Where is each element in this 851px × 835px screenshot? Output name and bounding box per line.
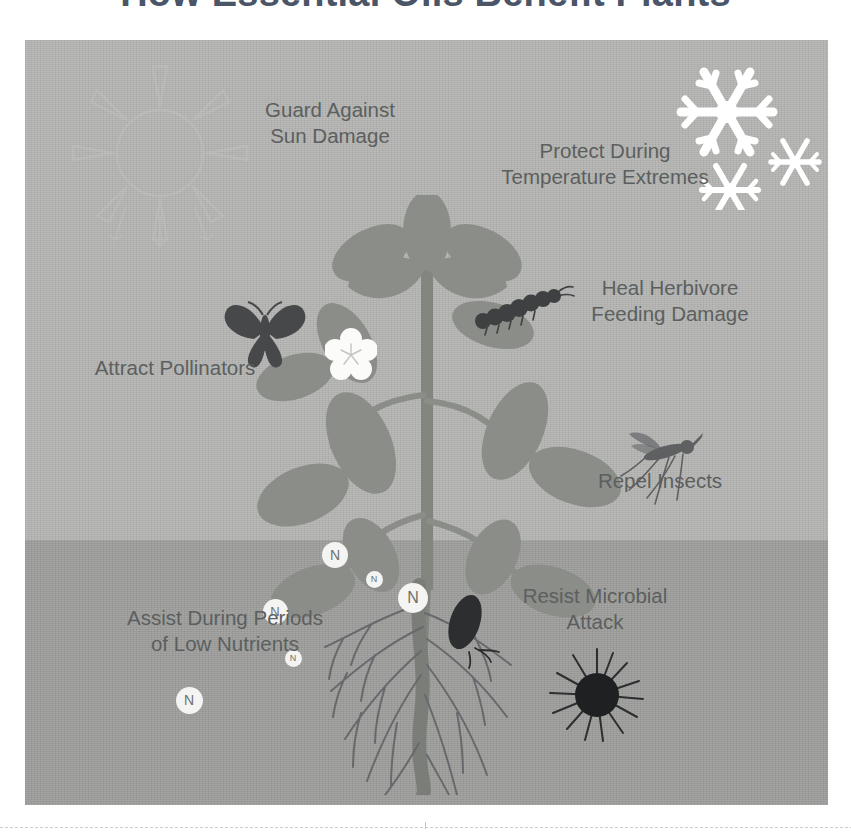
nutrient-marker: N [322, 542, 348, 568]
nutrient-marker: N [398, 583, 428, 613]
infographic-illustration: NNNNNN Guard Against Sun Damage Protect … [25, 40, 828, 805]
label-repel-insects: Repel Insects [565, 468, 755, 494]
page-divider-tick [425, 822, 426, 829]
label-resist-microbial-attack: Resist Microbial Attack [480, 583, 710, 635]
page-title: How Essential Oils Benefit Plants [0, 0, 851, 15]
nutrient-marker: N [176, 687, 203, 714]
label-attract-pollinators: Attract Pollinators [55, 355, 295, 381]
title-strip: How Essential Oils Benefit Plants [0, 0, 851, 26]
label-heal-herbivore-feeding-damage: Heal Herbivore Feeding Damage [545, 275, 795, 327]
flower-icon [325, 328, 377, 380]
label-protect-temperature-extremes: Protect During Temperature Extremes [455, 138, 755, 190]
nutrient-marker: N [366, 571, 383, 588]
label-assist-low-nutrients: Assist During Periods of Low Nutrients [95, 605, 355, 657]
label-guard-against-sun-damage: Guard Against Sun Damage [220, 97, 440, 149]
microbe-icon [547, 645, 647, 745]
